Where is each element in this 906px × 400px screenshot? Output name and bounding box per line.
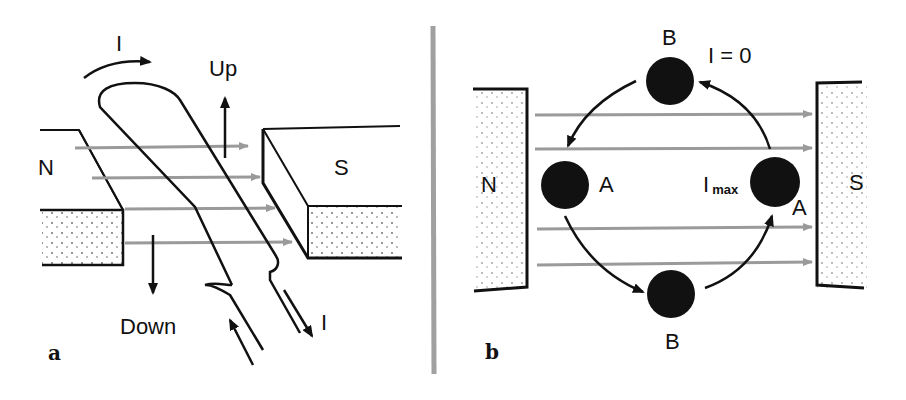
south-label-a: S bbox=[334, 155, 349, 180]
panel-a: I Up N S Down I a bbox=[38, 31, 402, 365]
left-a-label: A bbox=[599, 172, 614, 197]
conductor-bottom-b bbox=[647, 270, 695, 318]
current-arrow-top bbox=[84, 61, 150, 78]
north-label-a: N bbox=[38, 155, 54, 180]
panel-a-letter: a bbox=[48, 341, 61, 365]
conductor-left-a bbox=[541, 161, 589, 209]
down-label: Down bbox=[120, 314, 176, 339]
imax-label: Imax bbox=[703, 172, 739, 197]
right-a-label: A bbox=[792, 195, 807, 220]
south-magnet bbox=[263, 126, 402, 258]
motor-diagram: I Up N S Down I a bbox=[0, 0, 906, 400]
rotation-arrows bbox=[565, 81, 772, 292]
conductor-top-b bbox=[646, 57, 694, 105]
bottom-b-label: B bbox=[665, 329, 680, 354]
current-label-top: I bbox=[116, 31, 122, 56]
imax-main: I bbox=[703, 172, 709, 197]
up-label: Up bbox=[209, 56, 237, 81]
north-label-b: N bbox=[481, 172, 497, 197]
imax-sub: max bbox=[712, 182, 739, 197]
panel-divider bbox=[433, 26, 434, 374]
zero-current-label: I = 0 bbox=[708, 43, 751, 68]
panel-b: B I = 0 N A Imax A S B b bbox=[473, 25, 867, 364]
south-label-b: S bbox=[849, 170, 864, 195]
panel-b-letter: b bbox=[485, 340, 499, 364]
top-b-label: B bbox=[662, 25, 677, 50]
current-label-bottom: I bbox=[321, 310, 327, 335]
coil-loop bbox=[99, 83, 300, 350]
north-magnet bbox=[40, 130, 123, 265]
